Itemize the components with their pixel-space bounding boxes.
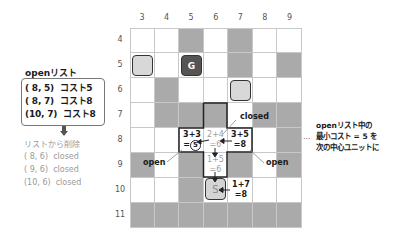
open-marker-7-6 xyxy=(230,80,251,101)
grid-cell xyxy=(179,178,204,203)
grid-cell xyxy=(204,78,229,103)
grid-cell xyxy=(179,103,204,128)
row-label: 5 xyxy=(112,60,128,69)
grid-cell xyxy=(130,78,155,103)
start-marker: S xyxy=(205,178,226,200)
open-list-box: ( 8, 5) コスト5 ( 8, 7) コスト8 (10, 7) コスト8 xyxy=(21,78,105,126)
grid-cell xyxy=(204,203,229,228)
open-list-item: ( 8, 5) コスト5 xyxy=(25,82,104,95)
column-label: 3 xyxy=(130,13,154,22)
removed-list-item: ( 8, 6) closed xyxy=(24,150,81,163)
grid-cell xyxy=(155,178,180,203)
grid-cell xyxy=(277,128,302,153)
column-label: 9 xyxy=(277,13,301,22)
row-label: 6 xyxy=(112,85,128,94)
grid-cell xyxy=(253,78,278,103)
grid-cell xyxy=(253,53,278,78)
goal-marker: G xyxy=(181,55,202,76)
grid-cell xyxy=(130,128,155,153)
grid-cell xyxy=(228,28,253,53)
removed-list-item: ( 9, 6) closed xyxy=(24,163,81,176)
grid-cell xyxy=(253,128,278,153)
grid-cell xyxy=(228,203,253,228)
closed-label: closed xyxy=(240,112,269,121)
row-label: 11 xyxy=(112,210,128,219)
removed-list-title: リストから削除 xyxy=(24,138,80,149)
down-arrow-icon xyxy=(60,126,68,136)
grid-cell xyxy=(155,203,180,228)
column-label: 6 xyxy=(204,13,228,22)
grid-cell xyxy=(204,53,229,78)
row-label: 4 xyxy=(112,35,128,44)
row-label: 8 xyxy=(112,135,128,144)
row-label: 9 xyxy=(112,160,128,169)
grid-cell xyxy=(130,28,155,53)
grid-cell xyxy=(155,28,180,53)
grid-cell xyxy=(179,153,204,178)
removed-list-item: (10, 6) closed xyxy=(24,176,81,189)
open-left-label: open xyxy=(143,158,165,167)
grid-cell xyxy=(277,178,302,203)
grid-cell xyxy=(228,153,253,178)
open-list-item: (10, 7) コスト8 xyxy=(25,108,104,121)
column-label: 7 xyxy=(228,13,252,22)
open-right-label: open xyxy=(266,158,288,167)
grid-cell xyxy=(228,53,253,78)
row-label: 7 xyxy=(112,110,128,119)
column-label: 8 xyxy=(253,13,277,22)
grid-cell xyxy=(277,78,302,103)
grid-cell xyxy=(179,203,204,228)
column-label: 5 xyxy=(179,13,203,22)
cost-start-right: 1+7 =8 xyxy=(229,180,253,200)
open-marker-3-5 xyxy=(132,55,153,76)
grid-cell xyxy=(253,28,278,53)
cost-right: 3+5 =8 xyxy=(228,130,252,150)
column-label: 4 xyxy=(155,13,179,22)
grid-cell xyxy=(204,28,229,53)
cost-below: 1+5 =6 xyxy=(204,155,227,175)
grid-cell xyxy=(155,103,180,128)
grid-cell xyxy=(277,53,302,78)
ellipsis-icon: … xyxy=(303,131,311,142)
grid-cell xyxy=(155,78,180,103)
grid-cell xyxy=(130,203,155,228)
grid-cell xyxy=(253,203,278,228)
removed-list: ( 8, 6) closed ( 9, 6) closed (10, 6) cl… xyxy=(24,150,81,189)
grid-cell xyxy=(155,53,180,78)
cost-center: 2+4 =6 xyxy=(204,130,227,150)
grid-cell xyxy=(277,28,302,53)
grid-cell xyxy=(179,78,204,103)
grid-cell xyxy=(130,178,155,203)
grid-cell xyxy=(155,128,180,153)
grid-cell xyxy=(277,203,302,228)
grid-cell xyxy=(277,103,302,128)
grid-cell xyxy=(179,28,204,53)
explanation-note: … openリスト中の 最小コスト = 5 を 次の中心ユニットに xyxy=(316,120,379,153)
open-list-item: ( 8, 7) コスト8 xyxy=(25,95,104,108)
grid-cell xyxy=(253,178,278,203)
grid-cell xyxy=(204,103,229,128)
grid-cell xyxy=(130,103,155,128)
cost-left: 3+3 =5 xyxy=(180,130,204,151)
row-label: 10 xyxy=(112,185,128,194)
min-cost-circle: 5 xyxy=(190,140,201,151)
